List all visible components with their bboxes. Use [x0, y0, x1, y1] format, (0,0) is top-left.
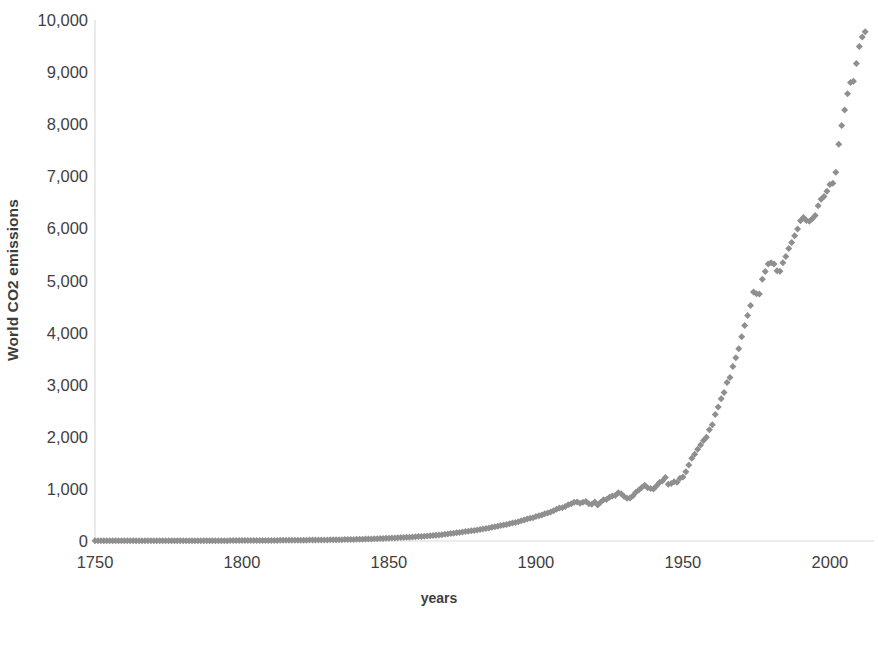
co2-emissions-chart: World CO2 emissions 01,0002,0003,0004,00… — [0, 0, 878, 650]
x-tick-label: 1800 — [224, 553, 261, 572]
data-point-marker — [712, 411, 719, 418]
data-point-marker — [853, 60, 860, 67]
data-point-marker — [785, 245, 792, 252]
x-tick-label: 1950 — [665, 553, 702, 572]
data-point-marker — [747, 302, 754, 309]
data-point-marker — [779, 259, 786, 266]
x-tick-label: 1900 — [518, 553, 555, 572]
data-point-marker — [841, 107, 848, 114]
data-point-marker — [788, 239, 795, 246]
data-point-marker — [844, 90, 851, 97]
data-point-marker — [759, 276, 766, 283]
data-point-marker — [715, 403, 722, 410]
data-point-marker — [729, 363, 736, 370]
data-point-marker — [762, 268, 769, 275]
data-point-marker — [744, 312, 751, 319]
data-point-marker — [838, 122, 845, 129]
data-point-marker — [791, 232, 798, 239]
x-tick-label: 2000 — [812, 553, 849, 572]
data-point-marker — [741, 322, 748, 329]
data-point-marker — [835, 141, 842, 148]
x-tick-label: 1850 — [371, 553, 408, 572]
data-point-marker — [718, 395, 725, 402]
data-point-marker — [738, 333, 745, 340]
data-point-marker — [782, 253, 789, 260]
data-point-marker — [685, 461, 692, 468]
data-point-marker — [735, 345, 742, 352]
data-point-marker — [794, 225, 801, 232]
axis-lines — [95, 20, 874, 541]
data-point-marker — [832, 169, 839, 176]
data-point-marker — [815, 202, 822, 209]
data-point-series — [92, 28, 869, 544]
data-point-marker — [732, 354, 739, 361]
data-point-marker — [721, 389, 728, 396]
data-point-marker — [856, 43, 863, 50]
x-axis-tick-labels: 175018001850190019502000 — [0, 553, 878, 583]
x-axis-title: years — [0, 590, 878, 606]
x-axis-title-text: years — [421, 590, 458, 606]
x-tick-label: 1750 — [77, 553, 114, 572]
